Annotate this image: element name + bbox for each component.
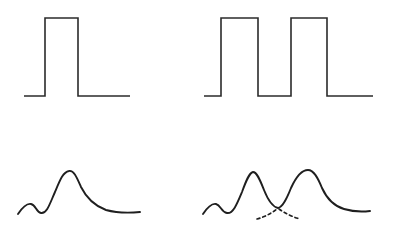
- figure-background: [0, 0, 397, 237]
- waveform-figure: [0, 0, 397, 237]
- figure-canvas: [0, 0, 397, 237]
